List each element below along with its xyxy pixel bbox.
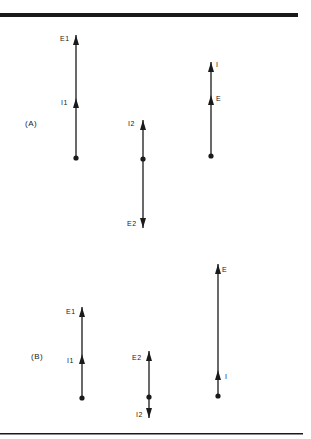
- phasor-a-mid: [140, 120, 146, 228]
- arrowhead-icon: [73, 35, 79, 45]
- vector-label-a-right-i: I: [216, 61, 218, 68]
- phasor-a-right: [208, 62, 214, 159]
- arrowhead-icon: [79, 354, 85, 364]
- vector-label-b-left-e1: E1: [66, 308, 76, 315]
- vector-label-a-mid-i2: I2: [128, 120, 135, 127]
- origin-dot: [73, 155, 78, 160]
- arrowhead-icon: [79, 307, 85, 317]
- origin-dot: [79, 395, 84, 400]
- phasor-a-left: [73, 35, 79, 161]
- origin-dot: [146, 394, 151, 399]
- arrowhead-icon: [146, 408, 152, 418]
- phasor-b-left: [79, 307, 85, 401]
- panel-b-label: (B): [31, 353, 43, 361]
- bottom-rule: [0, 433, 303, 435]
- arrowhead-icon: [215, 264, 221, 274]
- vector-label-a-left-i1: I1: [61, 99, 68, 106]
- vector-label-a-mid-e2: E2: [127, 220, 137, 227]
- top-rule: [0, 13, 298, 17]
- arrowhead-icon: [140, 218, 146, 228]
- origin-dot: [140, 156, 145, 161]
- arrowhead-icon: [208, 62, 214, 72]
- arrowhead-icon: [208, 95, 214, 105]
- arrowhead-icon: [140, 120, 146, 130]
- panel-b: [79, 264, 221, 418]
- vector-label-b-left-i1: I1: [67, 357, 74, 364]
- origin-dot: [208, 153, 213, 158]
- vector-label-a-right-e: E: [216, 95, 221, 102]
- origin-dot: [215, 393, 220, 398]
- arrowhead-icon: [215, 370, 221, 380]
- panel-a-label: (A): [25, 120, 37, 128]
- phasor-b-right: [215, 264, 221, 399]
- vector-label-b-mid-e2: E2: [132, 354, 142, 361]
- vector-label-b-right-e: E: [222, 266, 227, 273]
- arrowhead-icon: [146, 351, 152, 361]
- vector-label-b-right-i: I: [225, 373, 227, 380]
- vector-label-a-left-e1: E1: [60, 35, 70, 42]
- phasor-figure: [0, 0, 311, 439]
- arrowhead-icon: [73, 98, 79, 108]
- panel-a: [73, 35, 214, 228]
- vector-label-b-mid-i2: I2: [136, 411, 143, 418]
- phasor-b-mid: [146, 351, 152, 418]
